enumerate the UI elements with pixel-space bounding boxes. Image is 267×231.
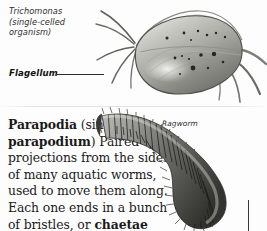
definition-panel-parapodia: Parapodia (sing. parapodium) Paired proj…: [0, 108, 267, 231]
figure-panel-trichomonas: Trichomonas (single-celled organism) Fla…: [0, 0, 267, 108]
trichomonas-caption: Trichomonas (single-celled organism): [9, 6, 65, 38]
flagellum-label: Flagellum: [9, 68, 58, 78]
parapodia-singular-close: ): [91, 134, 96, 149]
parapodia-singular-form: parapodium: [8, 134, 91, 149]
ragworm-illustration: [116, 108, 267, 231]
panel-divider-rule: [0, 106, 267, 107]
ragworm-leader-line: [248, 200, 249, 231]
trichomonas-cell-illustration: [92, 2, 267, 108]
document-page: Trichomonas (single-celled organism) Fla…: [0, 0, 267, 231]
parapodia-term: Parapodia: [8, 117, 77, 132]
